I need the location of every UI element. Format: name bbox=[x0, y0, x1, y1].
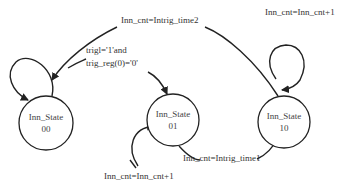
state-node-00: Inn_State 00 bbox=[19, 96, 73, 150]
label-00-to-01-line2: trig_reg(0)='0' bbox=[86, 58, 138, 68]
self-loop-10 bbox=[270, 45, 304, 90]
state-node-10: Inn_State 10 bbox=[258, 96, 310, 148]
label-self-loop-10: Inn_cnt=Inn_cnt+1 bbox=[265, 7, 335, 17]
svg-text:01: 01 bbox=[169, 121, 178, 131]
edge-10-to-00 bbox=[205, 27, 278, 96]
edge-00-to-01 bbox=[68, 59, 86, 68]
label-self-loop-01: Inn_cnt=Inn_cnt+1 bbox=[104, 171, 174, 181]
label-00-to-01-line1: trigl='1'and bbox=[86, 45, 127, 55]
state-node-01: Inn_State 01 bbox=[147, 94, 199, 146]
svg-text:Inn_State: Inn_State bbox=[267, 111, 302, 121]
svg-text:10: 10 bbox=[280, 123, 290, 133]
self-loop-00 bbox=[10, 58, 53, 100]
svg-text:Inn_State: Inn_State bbox=[156, 109, 191, 119]
label-01-to-10: Inn_cnt=Intrig_time1 bbox=[183, 153, 261, 163]
state-diagram: Inn_State 00 Inn_State 01 Inn_State 10 I… bbox=[0, 0, 344, 189]
svg-text:Inn_State: Inn_State bbox=[29, 112, 64, 122]
svg-text:00: 00 bbox=[42, 124, 52, 134]
label-10-to-00: Inn_cnt=Intrig_time2 bbox=[121, 15, 199, 25]
